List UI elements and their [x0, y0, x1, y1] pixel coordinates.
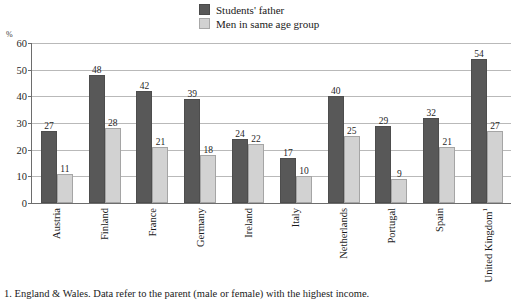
bar-value-label: 11	[60, 164, 69, 174]
bar-group: 3221	[415, 43, 463, 203]
x-axis-label-cell: Netherlands	[319, 206, 367, 278]
bar-value-label: 54	[474, 49, 484, 59]
plot-area: 0102030405060 27114828422139182422171040…	[31, 43, 511, 204]
bar-austria-students-father[interactable]: 27	[41, 131, 57, 203]
bar-value-label: 25	[347, 126, 357, 136]
y-axis-tick-mark	[28, 96, 32, 97]
bar-value-label: 40	[331, 86, 341, 96]
bar-united-kingdom-men-same-age-group[interactable]: 27	[487, 131, 503, 203]
y-axis-tick-mark	[28, 123, 32, 124]
bar-spain-men-same-age-group[interactable]: 21	[439, 147, 455, 203]
bar-value-label: 22	[251, 134, 261, 144]
bar-finland-men-same-age-group[interactable]: 28	[105, 128, 121, 203]
bar-germany-students-father[interactable]: 39	[184, 99, 200, 203]
x-axis-label-cell: Portugal	[367, 206, 415, 278]
x-axis-label-ireland: Ireland	[242, 208, 253, 238]
bar-group: 5427	[463, 43, 511, 203]
legend-swatch-icon-students-father	[199, 4, 210, 15]
bar-value-label: 21	[156, 137, 166, 147]
bar-value-label: 24	[235, 129, 245, 139]
x-axis-label-france: France	[146, 208, 157, 237]
bar-france-students-father[interactable]: 42	[136, 91, 152, 203]
x-axis-label-cell: Finland	[80, 206, 128, 278]
x-axis-label-germany: Germany	[194, 208, 205, 247]
x-axis-label-italy: Italy	[290, 208, 301, 227]
bar-germany-men-same-age-group[interactable]: 18	[200, 155, 216, 203]
bar-ireland-students-father[interactable]: 24	[232, 139, 248, 203]
y-axis-tick-label: 30	[17, 118, 28, 129]
y-axis-tick-label: 60	[17, 38, 28, 49]
x-axis-label-spain: Spain	[434, 208, 445, 232]
bar-value-label: 39	[188, 89, 198, 99]
x-axis-label-cell: Italy	[272, 206, 320, 278]
x-axis-label-portugal: Portugal	[386, 208, 397, 244]
bar-value-label: 27	[44, 121, 54, 131]
y-axis-tick-mark	[28, 43, 32, 44]
y-axis-tick-mark	[28, 176, 32, 177]
legend-label-men-same-age-group: Men in same age group	[216, 18, 319, 30]
chart-legend: Students' father Men in same age group	[199, 3, 399, 31]
y-axis-unit-label: %	[6, 30, 13, 39]
bar-ireland-men-same-age-group[interactable]: 22	[248, 144, 264, 203]
x-axis-label-cell: Spain	[415, 206, 463, 278]
bar-group: 2422	[224, 43, 272, 203]
bar-italy-students-father[interactable]: 17	[280, 158, 296, 203]
x-axis-label-cell: United Kingdom1	[463, 206, 511, 278]
bar-group: 2711	[33, 43, 81, 203]
chart-footnote: 1. England & Wales. Data refer to the pa…	[4, 287, 369, 300]
bar-portugal-men-same-age-group[interactable]: 9	[391, 179, 407, 203]
bar-group: 299	[368, 43, 416, 203]
y-axis-tick-label: 20	[17, 144, 28, 155]
bar-finland-students-father[interactable]: 48	[89, 75, 105, 203]
legend-swatch-icon-men-same-age-group	[199, 18, 210, 29]
bar-value-label: 17	[283, 148, 293, 158]
bar-value-label: 9	[397, 169, 402, 179]
footnote-marker: 1	[481, 208, 489, 212]
x-axis-label-cell: Germany	[176, 206, 224, 278]
x-axis-label-united-kingdom: United Kingdom1	[480, 208, 494, 282]
bar-value-label: 18	[204, 145, 214, 155]
y-axis-tick-label: 10	[17, 171, 28, 182]
bar-italy-men-same-age-group[interactable]: 10	[296, 176, 312, 203]
x-axis-label-cell: Ireland	[224, 206, 272, 278]
bar-value-label: 42	[140, 81, 150, 91]
y-axis-tick-mark	[28, 150, 32, 151]
bar-value-label: 48	[92, 65, 102, 75]
bar-netherlands-men-same-age-group[interactable]: 25	[344, 136, 360, 203]
bar-value-label: 10	[299, 166, 309, 176]
bar-group: 1710	[272, 43, 320, 203]
bar-value-label: 27	[490, 121, 500, 131]
bar-value-label: 21	[443, 137, 453, 147]
y-axis-tick-label: 0	[22, 198, 27, 209]
chart-page: Students' father Men in same age group %…	[0, 0, 532, 306]
bar-portugal-students-father[interactable]: 29	[375, 126, 391, 203]
bar-austria-men-same-age-group[interactable]: 11	[57, 174, 73, 203]
bar-france-men-same-age-group[interactable]: 21	[152, 147, 168, 203]
x-axis-label-cell: France	[128, 206, 176, 278]
bar-united-kingdom-students-father[interactable]: 54	[471, 59, 487, 203]
y-axis-tick-mark	[28, 203, 32, 204]
bar-group: 4025	[320, 43, 368, 203]
x-axis-labels: AustriaFinlandFranceGermanyIrelandItalyN…	[32, 206, 511, 278]
bar-group: 4221	[129, 43, 177, 203]
bar-value-label: 29	[379, 116, 389, 126]
y-axis-tick-label: 50	[17, 64, 28, 75]
bar-value-label: 32	[427, 108, 437, 118]
bar-group: 3918	[176, 43, 224, 203]
bars-layer: 271148284221391824221710402529932215427	[33, 43, 511, 203]
x-axis-label-netherlands: Netherlands	[338, 208, 349, 259]
x-axis-label-finland: Finland	[98, 208, 109, 240]
legend-item-students-father: Students' father	[199, 3, 399, 16]
bar-spain-students-father[interactable]: 32	[423, 118, 439, 203]
bar-value-label: 28	[108, 118, 118, 128]
x-axis-label-cell: Austria	[32, 206, 80, 278]
bar-netherlands-students-father[interactable]: 40	[328, 96, 344, 203]
x-axis-label-austria: Austria	[50, 208, 61, 239]
y-axis-tick-label: 40	[17, 91, 28, 102]
legend-item-men-same-age-group: Men in same age group	[199, 17, 399, 30]
y-axis-tick-mark	[28, 70, 32, 71]
bar-group: 4828	[81, 43, 129, 203]
legend-label-students-father: Students' father	[216, 4, 284, 16]
